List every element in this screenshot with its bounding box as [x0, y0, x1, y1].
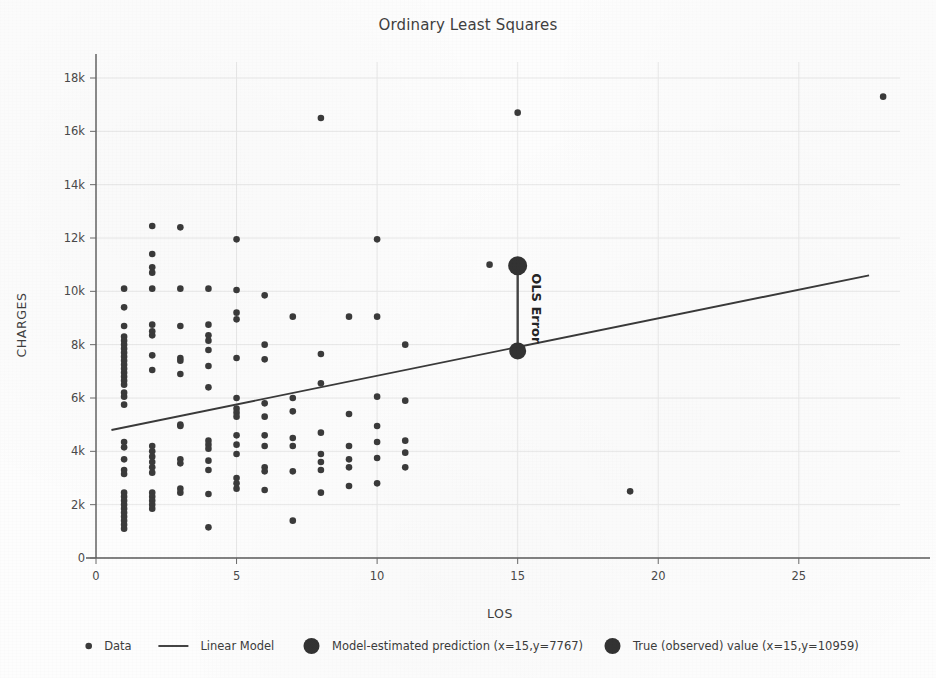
data-point — [318, 451, 325, 458]
data-point — [233, 432, 240, 439]
data-point — [374, 313, 381, 320]
x-tick-label: 15 — [510, 569, 525, 583]
ols-error-group: OLS Error — [508, 256, 544, 359]
data-point — [177, 371, 184, 378]
data-point — [121, 285, 128, 292]
y-tick-label: 16k — [64, 124, 86, 138]
data-point — [261, 487, 268, 494]
data-point — [346, 443, 353, 450]
data-point — [205, 321, 212, 328]
legend-item-label[interactable]: True (observed) value (x=15,y=10959) — [632, 639, 859, 653]
data-point — [205, 445, 212, 452]
data-point — [318, 380, 325, 387]
data-point — [205, 467, 212, 474]
data-point — [149, 367, 156, 374]
data-point — [374, 423, 381, 430]
data-point — [177, 489, 184, 496]
x-tick-label: 0 — [92, 569, 99, 583]
data-point — [177, 224, 184, 231]
data-point — [233, 395, 240, 402]
legend-item-label[interactable]: Model-estimated prediction (x=15,y=7767) — [332, 639, 583, 653]
data-point — [402, 437, 409, 444]
data-point — [205, 524, 212, 531]
data-point — [374, 480, 381, 487]
data-point — [205, 363, 212, 370]
data-point — [149, 223, 156, 230]
data-point — [346, 483, 353, 490]
data-point — [346, 456, 353, 463]
data-point — [121, 393, 128, 400]
data-point — [318, 429, 325, 436]
data-point — [402, 464, 409, 471]
data-point — [402, 449, 409, 456]
y-tick-label: 0 — [78, 551, 85, 565]
data-point — [374, 393, 381, 400]
data-point — [880, 93, 887, 100]
data-point — [233, 485, 240, 492]
data-point — [233, 355, 240, 362]
data-point — [374, 439, 381, 446]
model-estimated-prediction-marker[interactable] — [509, 342, 526, 359]
data-point — [261, 443, 268, 450]
x-tick-label: 5 — [233, 569, 240, 583]
x-tick-label: 25 — [791, 569, 806, 583]
data-point — [261, 341, 268, 348]
data-point — [205, 491, 212, 498]
data-point — [149, 321, 156, 328]
data-point — [121, 525, 128, 532]
data-point — [318, 115, 325, 122]
legend-marker-data-dot — [85, 643, 92, 650]
x-axis-title: LOS — [487, 606, 513, 621]
data-point — [402, 397, 409, 404]
data-point — [177, 323, 184, 330]
data-point — [289, 313, 296, 320]
data-point — [177, 460, 184, 467]
data-point — [205, 337, 212, 344]
data-point — [318, 351, 325, 358]
data-point — [261, 356, 268, 363]
data-point — [346, 313, 353, 320]
data-point — [121, 323, 128, 330]
axis-lines — [86, 54, 930, 558]
data-point — [289, 435, 296, 442]
data-point — [261, 413, 268, 420]
y-tick-label: 14k — [64, 178, 86, 192]
y-axis-tick-labels: 02k4k6k8k10k12k14k16k18k — [64, 71, 96, 565]
true-observed-value-marker[interactable] — [508, 256, 527, 275]
data-point — [177, 423, 184, 430]
data-point — [233, 441, 240, 448]
data-point — [233, 309, 240, 316]
legend-item-label[interactable]: Linear Model — [200, 639, 274, 653]
linear-model-line — [111, 275, 869, 430]
data-point — [121, 401, 128, 408]
data-point — [121, 456, 128, 463]
data-point — [233, 413, 240, 420]
data-point — [149, 285, 156, 292]
data-point — [289, 408, 296, 415]
data-point — [177, 285, 184, 292]
legend: DataLinear ModelModel-estimated predicti… — [85, 638, 858, 654]
data-point — [121, 381, 128, 388]
data-point — [121, 444, 128, 451]
chart-figure: Ordinary Least Squares 02k4k6k8k10k12k14… — [0, 0, 936, 678]
data-point — [627, 488, 634, 495]
data-point — [233, 316, 240, 323]
x-tick-label: 10 — [370, 569, 385, 583]
y-tick-label: 6k — [71, 391, 85, 405]
data-point — [149, 505, 156, 512]
data-point — [261, 468, 268, 475]
y-tick-label: 12k — [64, 231, 86, 245]
data-point — [289, 517, 296, 524]
data-point — [514, 109, 521, 116]
ols-error-annotation: OLS Error — [529, 273, 544, 344]
legend-marker-large-dot — [304, 638, 320, 654]
data-point — [346, 411, 353, 418]
data-point — [121, 304, 128, 311]
data-point — [233, 451, 240, 458]
legend-item-label[interactable]: Data — [104, 639, 131, 653]
y-axis-title: CHARGES — [14, 292, 29, 357]
data-point — [233, 236, 240, 243]
y-tick-label: 2k — [71, 498, 85, 512]
data-point — [177, 357, 184, 364]
y-tick-label: 10k — [64, 284, 86, 298]
